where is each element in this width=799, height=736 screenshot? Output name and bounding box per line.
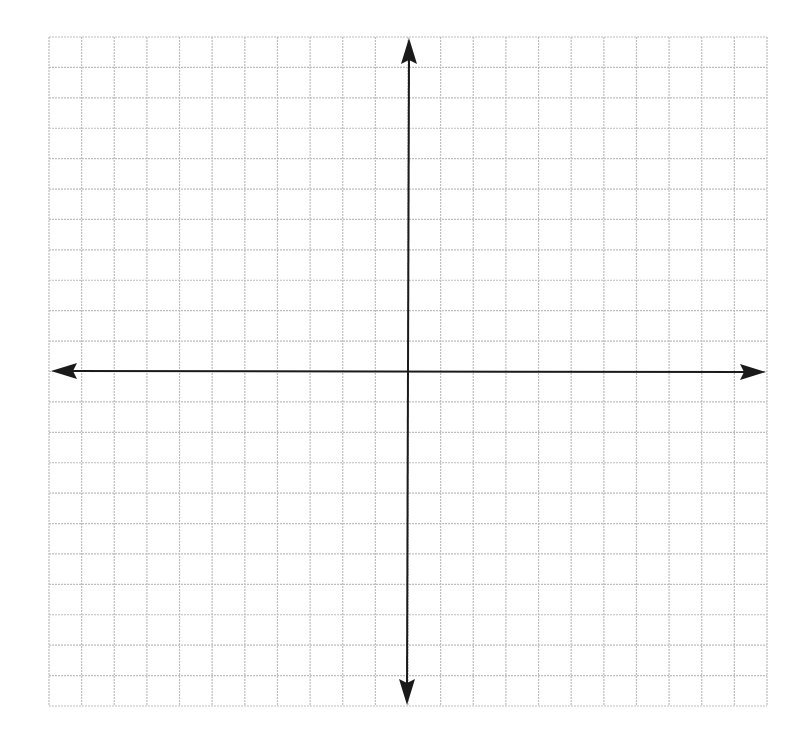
- coordinate-plane: [0, 0, 799, 736]
- y-axis: [407, 58, 409, 685]
